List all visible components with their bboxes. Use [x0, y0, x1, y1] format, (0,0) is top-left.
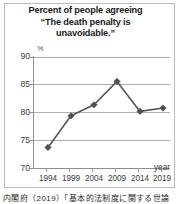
source-caption: 内閣府（2019）「基本的法制度に関する世論	[3, 192, 180, 203]
series-markers	[45, 78, 166, 150]
series-line-percent-agreeing	[48, 81, 163, 147]
chart-figure: Percent of people agreeing “The death pe…	[0, 0, 180, 204]
data-point-2019	[160, 105, 166, 111]
data-series-layer	[0, 0, 180, 204]
